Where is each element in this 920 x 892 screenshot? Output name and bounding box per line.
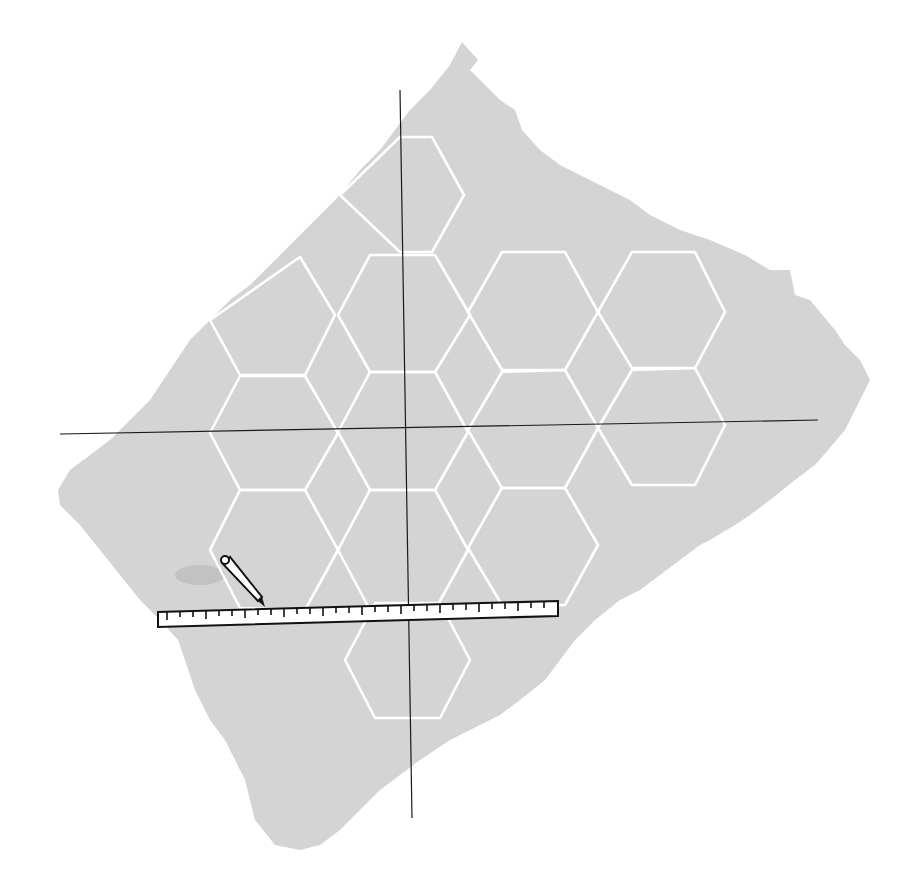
pencil-smudge — [175, 565, 225, 585]
illustration-canvas — [0, 0, 920, 892]
paper-sheet — [58, 42, 870, 850]
